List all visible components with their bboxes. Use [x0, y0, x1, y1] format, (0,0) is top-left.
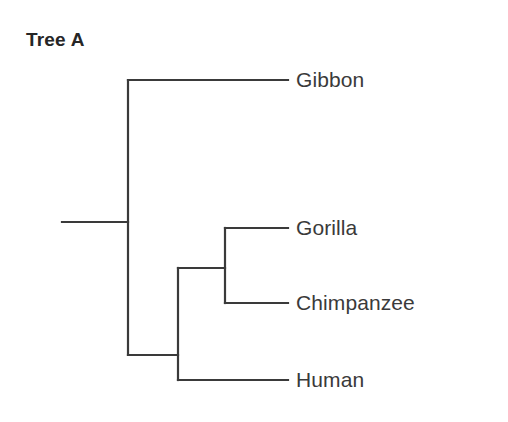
taxon-label-human: Human — [296, 368, 364, 392]
tree-branches-graphic — [0, 0, 508, 422]
phylogenetic-tree-figure: Tree A Gibbon Gorilla Chimpanzee Human — [0, 0, 508, 422]
taxon-label-gibbon: Gibbon — [296, 68, 364, 92]
taxon-label-gorilla: Gorilla — [296, 216, 357, 240]
taxon-label-chimpanzee: Chimpanzee — [296, 291, 415, 315]
